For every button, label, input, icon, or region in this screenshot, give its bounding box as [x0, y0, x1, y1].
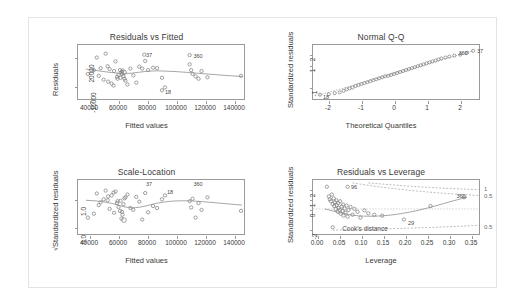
panel-residuals-vs-fitted: Residuals vs Fitted: [29, 18, 264, 153]
xaxis-label-scale-location: Fitted values: [29, 256, 264, 265]
plot-svg-scale-location: [78, 180, 244, 234]
ytick-mark: [310, 230, 313, 231]
xtick-label: 0.35: [465, 239, 478, 246]
xaxis-label-residuals-vs-leverage: Leverage: [264, 256, 498, 265]
plot-svg-residuals-vs-leverage: [313, 180, 479, 234]
xtick-label: 80000: [138, 239, 156, 246]
panel-title-scale-location: Scale-Location: [29, 167, 264, 177]
panel-title-normal-qq: Normal Q-Q: [264, 32, 498, 42]
xtick-label: 140000: [223, 104, 245, 111]
point-label-360: 360: [193, 181, 202, 187]
loess-curve-residuals-vs-fitted: [86, 69, 242, 76]
ytick-mark: [310, 66, 313, 67]
point-label-29: 29: [408, 220, 414, 226]
xaxis-label-residuals-vs-fitted: Fitted values: [29, 121, 264, 130]
xtick-label: 0: [392, 104, 396, 111]
xtick-label: 120000: [194, 239, 216, 246]
xtick-label: 0.15: [377, 239, 390, 246]
ytick-label: -1: [311, 91, 318, 97]
ytick-mark: [310, 190, 313, 191]
ytick-label: 20000: [88, 64, 95, 82]
plot-area-residuals-vs-fitted: 37 360 18: [77, 44, 245, 100]
cooks-distance-annotation: Cook's distance: [342, 225, 388, 232]
xtick-label: 0.25: [421, 239, 434, 246]
panel-title-residuals-vs-leverage: Residuals vs Leverage: [264, 167, 498, 177]
loess-curve-residuals-vs-leverage: [325, 197, 467, 216]
ytick-label: 1.0: [80, 207, 87, 216]
xtick-label: 0.00: [311, 239, 324, 246]
xtick-label: 0.20: [399, 239, 412, 246]
plot-area-scale-location: 37 360 18: [77, 179, 245, 235]
ytick-label: 0: [309, 214, 316, 218]
ytick-label: 2: [309, 58, 316, 62]
xaxis-label-normal-qq: Theoretical Quantiles: [264, 121, 498, 130]
xtick-label: -1: [358, 104, 364, 111]
ytick-mark: [310, 55, 313, 56]
figure-frame: Residuals vs Fitted: [28, 17, 497, 288]
xtick-label: 60000: [109, 239, 127, 246]
yaxis-label-residuals-vs-leverage: Standardized residuals: [286, 167, 295, 243]
figure-canvas: Residuals vs Fitted: [0, 0, 524, 308]
panel-title-residuals-vs-fitted: Residuals vs Fitted: [29, 32, 264, 42]
ytick-mark: [310, 210, 313, 211]
xtick-label: 60000: [109, 104, 127, 111]
data-points-scale-location: [86, 189, 243, 222]
yaxis-label-normal-qq: Standardized residuals: [286, 32, 295, 108]
point-label-18: 18: [165, 89, 171, 95]
xtick-label: 120000: [194, 104, 216, 111]
xtick-label: 0.30: [443, 239, 456, 246]
ytick-mark: [75, 87, 78, 88]
point-label-37: 37: [146, 52, 152, 58]
xtick-label: 80000: [138, 104, 156, 111]
xtick-label: 0.10: [355, 239, 368, 246]
xtick-label: 100000: [165, 104, 187, 111]
cooks-contour-1-upper: [368, 183, 479, 190]
ytick-label: 0.0: [80, 235, 87, 244]
xtick-label: 140000: [223, 239, 245, 246]
ytick-mark: [75, 228, 78, 229]
point-label-360: 360: [458, 50, 467, 56]
plot-area-residuals-vs-leverage: 96 360 29 Cook's distance 1 0.5 0.5: [312, 179, 480, 235]
ytick-label: -2: [311, 234, 318, 240]
ytick-mark: [310, 88, 313, 89]
xtick-label: 0.05: [333, 239, 346, 246]
panel-normal-qq: Normal Q-Q: [264, 18, 498, 153]
data-points-residuals-vs-leverage: [325, 185, 466, 229]
ytick-mark: [75, 200, 78, 201]
point-label-18: 18: [167, 189, 173, 195]
xtick-label: 1: [425, 104, 429, 111]
ytick-mark: [310, 200, 313, 201]
ytick-label: 2: [309, 194, 316, 198]
cooks-contour-label-05-upper: 0.5: [484, 193, 492, 199]
plot-svg-normal-qq: [313, 45, 479, 99]
plot-area-normal-qq: 18 360 37: [312, 44, 480, 100]
point-label-37: 37: [146, 181, 152, 187]
loess-curve-scale-location: [86, 200, 242, 207]
point-label-360: 360: [193, 53, 202, 59]
point-label-18: 18: [323, 94, 329, 100]
panel-scale-location: Scale-Location: [29, 153, 264, 289]
point-label-96: 96: [351, 184, 357, 190]
plot-svg-residuals-vs-fitted: [78, 45, 244, 99]
yaxis-label-scale-location: √Standardized residuals: [51, 171, 60, 251]
point-label-37: 37: [477, 48, 483, 54]
ytick-label: 1: [309, 69, 316, 73]
xtick-label: -2: [325, 104, 331, 111]
ytick-label: -10000: [90, 92, 97, 112]
xtick-label: 100000: [165, 239, 187, 246]
yaxis-label-residuals-vs-fitted: Residuals: [51, 63, 60, 96]
xtick-label: 2: [458, 104, 462, 111]
cooks-contour-label-05-lower: 0.5: [484, 224, 492, 230]
ytick-mark: [75, 58, 78, 59]
panel-residuals-vs-leverage: Residuals vs Leverage: [264, 153, 498, 289]
qq-reference-line: [319, 51, 473, 95]
ytick-label: 1: [309, 204, 316, 208]
point-label-360: 360: [456, 193, 465, 199]
cooks-contour-label-1: 1: [484, 186, 487, 192]
